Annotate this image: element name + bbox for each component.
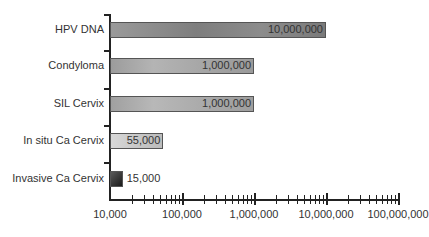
x-tick — [251, 195, 252, 204]
category-label: In situ Ca Cervix — [23, 134, 104, 146]
x-tick — [144, 195, 145, 204]
x-tick — [153, 195, 154, 204]
x-tick — [243, 195, 244, 204]
x-tick-label: 1,000,000 — [230, 208, 279, 220]
category-label: Invasive Ca Cervix — [12, 172, 104, 184]
y-tick — [104, 50, 110, 52]
x-tick-label: 10,000 — [93, 208, 127, 220]
x-tick — [182, 193, 184, 205]
x-tick — [238, 195, 239, 204]
x-tick — [232, 195, 233, 204]
x-tick — [319, 195, 320, 204]
x-tick — [376, 195, 377, 204]
value-label: 55,000 — [127, 134, 161, 146]
x-tick — [387, 195, 388, 204]
x-tick — [288, 195, 289, 204]
x-tick — [297, 195, 298, 204]
y-tick — [104, 125, 110, 127]
category-label: SIL Cervix — [54, 97, 104, 109]
x-tick — [310, 195, 311, 204]
x-tick — [323, 195, 324, 204]
value-label: 10,000,000 — [268, 23, 323, 35]
x-tick — [326, 193, 328, 205]
value-label: 15,000 — [127, 172, 161, 184]
x-tick — [304, 195, 305, 204]
x-tick-label: 10,000,000 — [298, 208, 353, 220]
x-tick — [216, 195, 217, 204]
category-label: HPV DNA — [55, 23, 104, 35]
x-tick — [247, 195, 248, 204]
y-tick — [104, 14, 110, 16]
category-label: Condyloma — [48, 59, 104, 71]
x-tick — [225, 195, 226, 204]
x-tick — [160, 195, 161, 204]
x-tick — [395, 195, 396, 204]
y-tick — [104, 88, 110, 90]
value-label: 1,000,000 — [202, 97, 251, 109]
x-tick — [132, 195, 133, 204]
x-tick — [171, 195, 172, 204]
x-tick — [175, 195, 176, 204]
x-tick — [391, 195, 392, 204]
bar — [110, 171, 123, 187]
x-tick-label: 100,000 — [162, 208, 202, 220]
x-tick-label: 100,000,000 — [367, 208, 428, 220]
x-tick — [369, 195, 370, 204]
x-tick — [166, 195, 167, 204]
y-tick — [104, 162, 110, 164]
x-tick — [348, 195, 349, 204]
x-tick — [398, 193, 400, 205]
x-tick — [315, 195, 316, 204]
x-tick — [254, 193, 256, 205]
value-label: 1,000,000 — [202, 59, 251, 71]
x-tick — [179, 195, 180, 204]
x-tick — [204, 195, 205, 204]
x-tick — [382, 195, 383, 204]
x-tick — [360, 195, 361, 204]
x-tick — [276, 195, 277, 204]
